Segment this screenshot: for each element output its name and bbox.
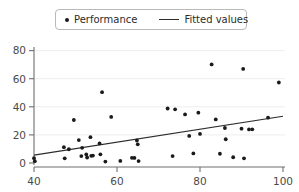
data-point (187, 134, 191, 138)
data-point (224, 137, 228, 141)
y-tick-label-40: 40 (13, 101, 26, 113)
y-tick-label-0: 0 (19, 157, 26, 169)
data-point (196, 111, 200, 115)
performance-data-points (32, 62, 281, 163)
data-point (135, 139, 139, 143)
x-tick-label-100: 100 (273, 175, 293, 187)
data-point (63, 156, 67, 160)
data-point (79, 154, 83, 158)
fitted-values-line (34, 116, 283, 155)
data-point (250, 127, 254, 131)
data-point (210, 62, 214, 66)
data-point (173, 107, 177, 111)
data-point (98, 142, 102, 146)
data-point (247, 128, 251, 132)
data-point (77, 138, 81, 142)
data-point (231, 155, 235, 159)
data-point (85, 156, 89, 160)
data-point (118, 159, 122, 163)
data-point (266, 116, 270, 120)
data-point (91, 154, 95, 158)
data-point (241, 67, 245, 71)
data-point (109, 115, 113, 119)
data-point (33, 159, 37, 163)
data-point (62, 145, 66, 149)
data-point (240, 127, 244, 131)
data-point (214, 118, 218, 122)
y-tick-label-20: 20 (13, 129, 26, 141)
x-axis-ticks: 406080100 (27, 167, 293, 187)
data-point (67, 147, 71, 151)
y-tick-label-60: 60 (13, 73, 26, 85)
data-point (183, 112, 187, 116)
data-point (218, 152, 222, 156)
data-point (103, 160, 107, 164)
y-axis-ticks: 020406080 (13, 44, 34, 168)
data-point (136, 142, 140, 146)
y-tick-label-80: 80 (13, 44, 26, 56)
data-point (198, 132, 202, 136)
data-point (89, 135, 93, 139)
data-point (223, 126, 227, 130)
scatter-chart-figure: Performance Fitted values 020406080 4060… (0, 0, 299, 192)
x-tick-label-40: 40 (27, 175, 40, 187)
data-point (137, 159, 141, 163)
data-point (277, 81, 281, 85)
data-point (242, 156, 246, 160)
fitted-line (34, 116, 283, 155)
x-tick-label-80: 80 (193, 175, 206, 187)
data-point (191, 152, 195, 156)
data-point (166, 107, 170, 111)
data-point (171, 154, 175, 158)
x-tick-label-60: 60 (110, 175, 123, 187)
data-point (72, 118, 76, 122)
data-point (99, 152, 103, 156)
data-point (80, 146, 84, 150)
data-point (133, 156, 137, 160)
data-point (100, 90, 104, 94)
plot-area: 020406080 406080100 (0, 0, 299, 192)
